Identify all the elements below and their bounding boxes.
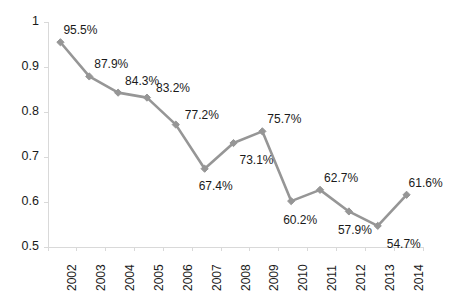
data-point-label: 61.6%: [409, 176, 443, 190]
x-axis-tick-label: 2013: [383, 264, 397, 291]
chart-canvas: [0, 0, 454, 301]
data-point-label: 95.5%: [63, 23, 97, 37]
y-axis-tick-label: 0.9: [0, 59, 39, 73]
x-axis-tick-label: 2002: [65, 264, 79, 291]
axes-group: [48, 22, 423, 247]
x-axis-tick-label: 2006: [181, 264, 195, 291]
x-axis-tick-label: 2005: [152, 264, 166, 291]
x-axis-tick-label: 2003: [94, 264, 108, 291]
x-axis-tick-label: 2007: [210, 264, 224, 291]
data-point-marker: [259, 128, 266, 135]
data-point-label: 57.9%: [338, 223, 372, 237]
y-axis-tick-label: 0.5: [0, 239, 39, 253]
data-point-label: 54.7%: [387, 237, 421, 251]
y-axis-tick-label: 0.6: [0, 194, 39, 208]
data-point-label: 84.3%: [125, 74, 159, 88]
data-point-label: 73.1%: [240, 153, 274, 167]
x-axis-tick-label: 2012: [354, 264, 368, 291]
x-axis-tick-label: 2009: [267, 264, 281, 291]
y-axis-tick-label: 1: [0, 14, 39, 28]
data-point-label: 60.2%: [283, 213, 317, 227]
x-axis-tick-label: 2014: [412, 264, 426, 291]
data-point-label: 75.7%: [267, 112, 301, 126]
line-chart: 10.90.80.70.60.5 20022003200420052006200…: [0, 0, 454, 301]
tick-marks-group: [44, 22, 423, 251]
y-axis-tick-label: 0.7: [0, 149, 39, 163]
data-point-label: 62.7%: [324, 171, 358, 185]
data-point-marker: [288, 198, 295, 205]
data-point-label: 77.2%: [185, 108, 219, 122]
data-point-label: 83.2%: [156, 81, 190, 95]
x-axis-tick-label: 2011: [325, 265, 339, 291]
x-axis-tick-label: 2010: [296, 264, 310, 291]
x-axis-tick-label: 2004: [123, 264, 137, 291]
y-axis-tick-label: 0.8: [0, 104, 39, 118]
data-point-label: 87.9%: [94, 57, 128, 71]
data-point-label: 67.4%: [199, 179, 233, 193]
x-axis-tick-label: 2008: [239, 264, 253, 291]
